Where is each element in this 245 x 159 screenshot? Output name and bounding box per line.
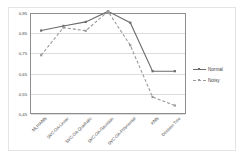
data-point [107,10,109,12]
data-point [129,44,131,46]
data-point [174,104,176,106]
series-line-noisy [41,11,175,105]
x-tick-label: MLP/ANN [31,116,48,133]
legend-label-normal: Normal [208,67,223,72]
data-point [40,29,42,31]
legend-item-normal[interactable]: Normal [193,65,239,74]
data-point [40,54,42,56]
legend-item-noisy[interactable]: Noisy [193,76,239,85]
legend-line-noisy-icon [193,77,206,84]
data-point [174,70,176,72]
data-point [151,96,153,98]
x-tick-label: SVC-OA-Linear [46,116,70,140]
x-axis: MLP/ANNSVC-OA-LinearSVC-OA-QuadraticSVC-… [30,114,186,159]
legend-label-noisy: Noisy [208,78,220,83]
data-point [85,30,87,32]
chart-container: 0,950,850,750,650,550,45 MLP/ANNSVC-OA-L… [0,0,245,159]
x-tick-label: KNN [149,116,159,126]
data-point [129,22,131,24]
data-point [62,26,64,28]
chart-legend: Normal Noisy [193,65,239,87]
x-tick-label: Decision Tree [160,116,181,137]
series-line-normal [41,11,175,71]
data-point [151,70,153,72]
legend-line-normal-icon [193,66,206,73]
data-point [85,21,87,23]
